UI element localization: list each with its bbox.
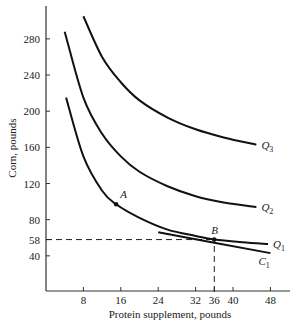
point-label-a: A	[119, 188, 127, 200]
y-tick-label: 80	[29, 214, 41, 226]
point-b	[212, 237, 216, 241]
x-axis-ticks: 8162432364048	[81, 287, 277, 306]
dashed-reference-lines	[46, 240, 214, 292]
curve-q3	[83, 16, 256, 144]
y-tick-label: 240	[24, 69, 41, 81]
y-tick-label: 120	[24, 178, 41, 190]
curve-label-q1: Q1	[273, 238, 285, 253]
x-tick-label: 32	[190, 294, 201, 306]
point-label-b: B	[211, 224, 218, 236]
x-tick-label: 36	[209, 294, 221, 306]
x-tick-label: 48	[265, 294, 277, 306]
curve-label-q3: Q3	[261, 139, 273, 154]
curve-label-q2: Q2	[261, 201, 273, 216]
x-tick-label: 16	[115, 294, 127, 306]
x-tick-label: 24	[153, 294, 165, 306]
curve-q1	[66, 98, 268, 244]
curve-q2	[65, 32, 257, 207]
y-tick-label: 160	[24, 141, 41, 153]
y-tick-label: 40	[29, 250, 41, 262]
point-a	[114, 202, 118, 206]
x-axis-label: Protein supplement, pounds	[109, 308, 232, 320]
isoquant-chart: 405880120160200240280 8162432364048 Q1Q2…	[0, 0, 301, 323]
y-axis-label: Corn, pounds	[6, 118, 18, 177]
y-tick-label: 280	[24, 33, 41, 45]
curves: Q1Q2Q3C1	[65, 16, 285, 270]
y-tick-label: 58	[29, 234, 41, 246]
x-tick-label: 8	[81, 294, 87, 306]
axes	[46, 6, 290, 291]
curve-label-c1: C1	[258, 255, 269, 270]
x-tick-label: 40	[228, 294, 240, 306]
y-tick-label: 200	[24, 105, 41, 117]
